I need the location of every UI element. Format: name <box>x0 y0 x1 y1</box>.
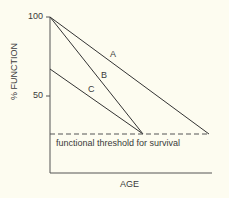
line-c <box>50 69 143 134</box>
label-a: A <box>110 50 116 59</box>
ytick-50: 50 <box>33 91 43 100</box>
ytick-100: 100 <box>28 12 43 21</box>
label-b: B <box>101 71 107 80</box>
y-axis-label: % FUNCTION <box>9 43 19 100</box>
label-c: C <box>88 85 95 94</box>
threshold-label: functional threshold for survival <box>56 139 180 148</box>
x-axis-label: AGE <box>120 180 139 189</box>
